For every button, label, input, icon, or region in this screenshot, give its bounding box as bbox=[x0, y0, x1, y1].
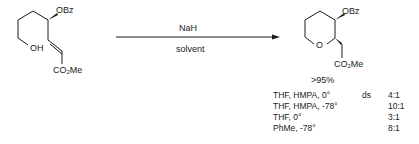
ratio-row-1: 4:1 bbox=[388, 90, 400, 100]
solvent-label: solvent bbox=[176, 44, 205, 54]
product-ring-oxygen-label: O bbox=[316, 40, 323, 50]
condition-row-2: THF, HMPA, -78° bbox=[273, 101, 338, 111]
reactant-obz-label: OBz bbox=[56, 5, 74, 15]
condition-row-3: THF, 0° bbox=[273, 112, 301, 122]
product-structure bbox=[305, 11, 342, 58]
product-ester-label: CO2Me bbox=[334, 59, 363, 71]
condition-row-1: THF, HMPA, 0° bbox=[273, 90, 330, 100]
reaction-arrow bbox=[116, 35, 280, 40]
ds-label: ds bbox=[362, 90, 371, 100]
ratio-row-3: 3:1 bbox=[388, 112, 400, 122]
yield-label: >95% bbox=[311, 75, 334, 85]
reactant-ester-label: CO2Me bbox=[53, 65, 82, 77]
product-wedge-bond-ch2 bbox=[335, 38, 342, 45]
reagent-label: NaH bbox=[179, 23, 197, 33]
product-obz-label: OBz bbox=[342, 6, 360, 16]
reactant-oh-label: OH bbox=[30, 43, 44, 53]
condition-row-4: PhMe, -78° bbox=[273, 123, 316, 133]
reactant-structure bbox=[18, 11, 62, 64]
ratio-row-2: 10:1 bbox=[388, 101, 405, 111]
ratio-row-4: 8:1 bbox=[388, 123, 400, 133]
